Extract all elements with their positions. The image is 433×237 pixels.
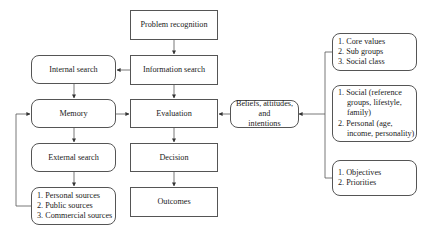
- external-search-label: External search: [48, 153, 99, 163]
- external-search-box: External search: [31, 143, 116, 172]
- evaluation-label: Evaluation: [156, 109, 191, 119]
- sources-box: 1. Personal sources 2. Public sources 3.…: [31, 187, 116, 225]
- influences-item-personal: 2. Personal (age, income, personality): [338, 119, 414, 139]
- influences-item-social: 1. Social (reference groups, lifestyle, …: [338, 88, 414, 119]
- influences-line: family): [338, 108, 414, 118]
- outcomes-label: Outcomes: [157, 197, 190, 207]
- sources-item: 1. Personal sources: [37, 191, 112, 201]
- sources-item: 3. Commercial sources: [37, 211, 112, 221]
- goals-item: 1. Objectives: [338, 168, 381, 178]
- sources-item: 2. Public sources: [37, 201, 112, 211]
- internal-search-box: Internal search: [31, 55, 116, 84]
- memory-box: Memory: [31, 99, 116, 128]
- problem-recognition-label: Problem recognition: [140, 20, 207, 30]
- memory-label: Memory: [59, 109, 87, 119]
- influences-line: 2. Personal (age,: [338, 119, 393, 128]
- sources-list: 1. Personal sources 2. Public sources 3.…: [37, 191, 112, 222]
- decision-box: Decision: [130, 143, 218, 172]
- culture-list: 1. Core values 2. Sub groups 3. Social c…: [338, 37, 385, 68]
- influences-box: 1. Social (reference groups, lifestyle, …: [332, 85, 417, 142]
- influences-line: groups, lifestyle,: [338, 98, 414, 108]
- outcomes-box: Outcomes: [130, 187, 218, 217]
- evaluation-box: Evaluation: [130, 99, 218, 128]
- culture-box: 1. Core values 2. Sub groups 3. Social c…: [332, 33, 417, 71]
- culture-item: 2. Sub groups: [338, 47, 385, 57]
- culture-item: 1. Core values: [338, 37, 385, 47]
- information-search-box: Information search: [130, 55, 218, 85]
- decision-label: Decision: [159, 153, 188, 163]
- beliefs-label-line1: Beliefs, attitudes, and: [231, 99, 298, 119]
- influences-line: 1. Social (reference: [338, 88, 402, 97]
- culture-item: 3. Social class: [338, 57, 385, 67]
- problem-recognition-box: Problem recognition: [130, 10, 218, 40]
- influences-line: income, personality): [338, 129, 414, 139]
- goals-list: 1. Objectives 2. Priorities: [338, 168, 381, 188]
- beliefs-box: Beliefs, attitudes, and intentions: [230, 100, 299, 128]
- beliefs-label-line2: intentions: [248, 119, 280, 129]
- goals-box: 1. Objectives 2. Priorities: [332, 160, 417, 196]
- goals-item: 2. Priorities: [338, 178, 381, 188]
- information-search-label: Information search: [143, 65, 205, 75]
- influences-list: 1. Social (reference groups, lifestyle, …: [338, 88, 414, 139]
- internal-search-label: Internal search: [49, 65, 97, 75]
